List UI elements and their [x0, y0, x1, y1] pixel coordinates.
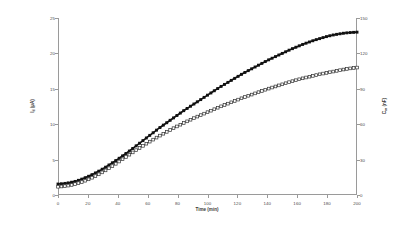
data-marker — [226, 81, 229, 84]
data-marker — [264, 88, 267, 91]
data-marker — [223, 83, 226, 86]
data-marker — [189, 118, 192, 121]
x-tick — [327, 195, 328, 198]
data-marker — [74, 183, 77, 186]
data-marker — [318, 37, 321, 40]
data-marker — [216, 106, 219, 109]
data-marker — [57, 185, 60, 188]
x-tick-label: 40 — [115, 201, 120, 206]
data-marker — [199, 114, 202, 117]
x-tick-label: 80 — [175, 201, 180, 206]
data-marker — [274, 55, 277, 58]
data-marker — [125, 156, 128, 159]
data-marker — [145, 137, 148, 140]
data-marker — [254, 66, 257, 69]
data-marker — [152, 138, 155, 141]
data-marker — [233, 100, 236, 103]
data-marker — [356, 31, 359, 34]
data-marker — [349, 67, 352, 70]
data-marker — [179, 112, 182, 115]
y-left-tick-label: 20 — [46, 51, 55, 56]
data-marker — [291, 80, 294, 83]
data-marker — [305, 76, 308, 79]
data-marker — [138, 147, 141, 150]
data-marker — [220, 105, 223, 108]
data-marker — [250, 93, 253, 96]
data-marker — [230, 101, 233, 104]
data-marker — [192, 103, 195, 106]
data-marker — [155, 136, 158, 139]
data-marker — [63, 182, 66, 185]
data-marker — [216, 87, 219, 90]
data-marker — [247, 69, 250, 72]
data-marker — [155, 129, 158, 132]
data-marker — [254, 92, 257, 95]
data-marker — [193, 117, 196, 120]
data-marker — [196, 100, 199, 103]
data-marker — [189, 105, 192, 108]
data-marker — [104, 166, 107, 169]
data-marker — [294, 46, 297, 49]
data-marker — [281, 83, 284, 86]
data-marker — [125, 152, 128, 155]
data-marker — [335, 33, 338, 36]
data-marker — [128, 153, 131, 156]
y-right-tick-label: 90 — [360, 86, 371, 91]
data-marker — [101, 171, 104, 174]
data-marker — [247, 94, 250, 97]
y-right-title-sub: m — [384, 108, 388, 111]
y-left-tick-label: 15 — [46, 86, 55, 91]
data-marker — [111, 165, 114, 168]
data-marker — [284, 50, 287, 53]
data-marker — [345, 68, 348, 71]
data-marker — [175, 114, 178, 117]
data-marker — [172, 116, 175, 119]
x-tick — [267, 195, 268, 198]
data-marker — [67, 184, 70, 187]
data-marker — [244, 96, 247, 99]
data-marker — [240, 97, 243, 100]
data-marker — [199, 98, 202, 101]
data-marker — [308, 75, 311, 78]
data-marker — [77, 179, 80, 182]
data-marker — [70, 184, 73, 187]
data-marker — [67, 181, 70, 184]
data-marker — [108, 164, 111, 167]
data-marker — [186, 107, 189, 110]
data-marker — [271, 57, 274, 60]
y-right-tick-label: 30 — [360, 157, 371, 162]
series-canvas — [58, 18, 357, 195]
data-marker — [322, 36, 325, 39]
data-marker — [325, 35, 328, 38]
data-marker — [94, 175, 97, 178]
x-tick-label: 60 — [145, 201, 150, 206]
x-tick — [148, 195, 149, 198]
data-marker — [118, 157, 121, 160]
x-tick-label: 200 — [353, 201, 361, 206]
data-marker — [220, 85, 223, 88]
y-left-tick — [55, 195, 58, 196]
data-marker — [179, 123, 182, 126]
data-marker — [342, 68, 345, 71]
data-marker — [203, 96, 206, 99]
data-marker — [325, 72, 328, 75]
y-right-title-unit: (nF) — [382, 98, 387, 108]
data-marker — [352, 67, 355, 70]
data-marker — [135, 149, 138, 152]
data-marker — [172, 127, 175, 130]
data-marker — [335, 70, 338, 73]
data-marker — [356, 66, 359, 69]
x-tick-label: 0 — [57, 201, 60, 206]
series-line — [58, 32, 357, 184]
data-marker — [210, 109, 213, 112]
y-right-title-main: C — [382, 111, 387, 114]
data-marker — [80, 178, 83, 181]
data-marker — [281, 52, 284, 55]
data-marker — [169, 119, 172, 122]
data-marker — [305, 42, 308, 45]
data-marker — [243, 71, 246, 74]
x-tick-label: 100 — [204, 201, 212, 206]
data-marker — [223, 104, 226, 107]
data-marker — [101, 168, 104, 171]
data-marker — [227, 102, 230, 105]
